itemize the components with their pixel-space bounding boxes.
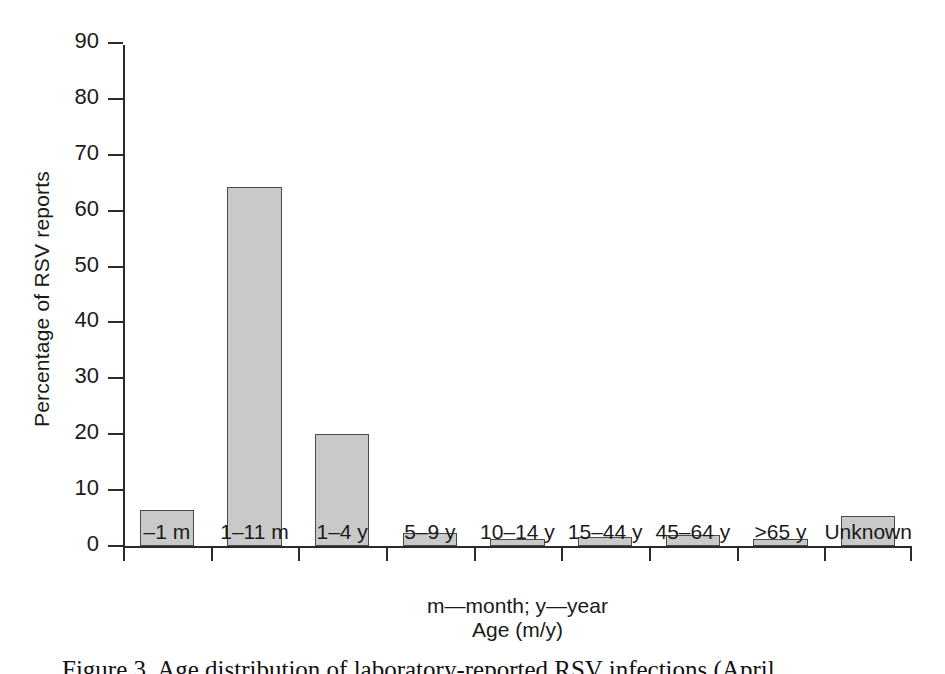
y-axis-tick: 80 <box>108 98 123 100</box>
y-axis-tick: 0 <box>108 545 123 547</box>
x-axis-line <box>123 546 912 548</box>
y-axis-tick: 50 <box>108 266 123 268</box>
x-category-label: 5–9 y <box>386 520 474 544</box>
x-category-label: 45–64 y <box>649 520 737 544</box>
x-axis-tick <box>561 548 563 561</box>
bar <box>227 187 281 546</box>
x-category-label: 10–14 y <box>474 520 562 544</box>
y-axis-tick: 60 <box>108 210 123 212</box>
x-axis-tick <box>910 548 912 561</box>
y-axis-tick: 10 <box>108 489 123 491</box>
x-axis-tick <box>737 548 739 561</box>
x-category-label: 1–11 m <box>211 520 299 544</box>
x-axis-tick <box>211 548 213 561</box>
y-axis-tick-label: 50 <box>75 253 99 277</box>
y-axis-tick: 30 <box>108 377 123 379</box>
x-axis-tick <box>824 548 826 561</box>
y-axis-tick-label: 0 <box>87 532 99 556</box>
x-axis-tick <box>298 548 300 561</box>
y-axis-tick-label: 30 <box>75 364 99 388</box>
y-axis-tick-label: 40 <box>75 308 99 332</box>
y-axis-tick-label: 20 <box>75 420 99 444</box>
y-axis-tick: 70 <box>108 154 123 156</box>
y-axis-tick: 20 <box>108 433 123 435</box>
y-axis-title: Percentage of RSV reports <box>30 79 54 519</box>
y-axis-tick-label: 90 <box>75 29 99 53</box>
x-category-label: Unknown <box>824 520 912 544</box>
x-axis-tick <box>386 548 388 561</box>
x-axis-title: Age (m/y) <box>123 617 912 642</box>
x-axis-tick <box>123 548 125 561</box>
x-category-label: 1–4 y <box>298 520 386 544</box>
y-axis-tick-label: 80 <box>75 85 99 109</box>
x-category-label: >65 y <box>737 520 825 544</box>
y-axis-tick-label: 70 <box>75 141 99 165</box>
y-axis-tick-label: 60 <box>75 197 99 221</box>
y-axis-tick: 40 <box>108 321 123 323</box>
figure-caption: Figure 3. Age distribution of laboratory… <box>62 655 942 674</box>
x-category-label: 15–44 y <box>561 520 649 544</box>
plot-area: 0102030405060708090 <box>123 45 912 548</box>
x-axis-tick <box>474 548 476 561</box>
chart-page: Percentage of RSV reports 01020304050607… <box>0 0 945 674</box>
y-axis-tick-label: 10 <box>75 476 99 500</box>
x-axis-tick <box>649 548 651 561</box>
y-axis-line <box>123 45 125 549</box>
x-axis-note: m—month; y—year <box>123 593 912 618</box>
y-axis-tick: 90 <box>108 42 123 44</box>
x-category-label: –1 m <box>123 520 211 544</box>
